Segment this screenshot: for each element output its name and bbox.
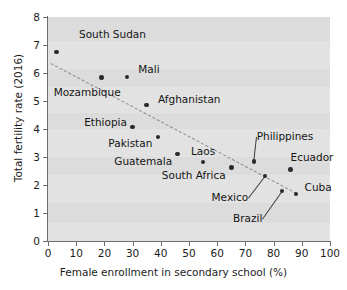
data-point-label: Mozambique [54, 87, 121, 98]
x-axis-tick-label: 90 [287, 248, 317, 258]
data-point-label: Afghanistan [158, 94, 221, 105]
y-axis-tick [43, 101, 47, 102]
x-axis-tick [302, 242, 303, 246]
y-axis-tick [43, 73, 47, 74]
y-axis-tick-label: 8 [10, 12, 40, 22]
data-point [144, 103, 149, 108]
x-axis-tick [76, 242, 77, 246]
data-point [54, 50, 59, 55]
y-axis-tick [43, 185, 47, 186]
data-point [252, 159, 257, 164]
y-axis-title: Total fertility rate (2016) [12, 38, 24, 198]
y-axis-line [47, 16, 48, 242]
x-axis-tick-label: 100 [315, 248, 345, 258]
x-axis-title: Female enrollment in secondary school (%… [0, 266, 347, 278]
scatter-chart-figure: 012345678 0102030405060708090100 South S… [0, 0, 347, 290]
plot-area [48, 17, 330, 241]
data-point-label: Guatemala [0, 156, 172, 167]
x-axis-tick-label: 80 [259, 248, 289, 258]
y-axis-tick [43, 241, 47, 242]
data-point [229, 165, 234, 170]
x-axis-tick-label: 70 [230, 248, 260, 258]
x-axis-tick-label: 50 [174, 248, 204, 258]
x-axis-tick [330, 242, 331, 246]
data-point-label: Mali [138, 64, 159, 75]
data-point-label: Ecuador [291, 152, 334, 163]
x-axis-tick-label: 30 [118, 248, 148, 258]
data-point [288, 167, 293, 172]
x-axis-tick-label: 60 [202, 248, 232, 258]
x-axis-tick-label: 40 [146, 248, 176, 258]
data-point-label: Philippines [257, 131, 314, 142]
data-point [99, 75, 104, 80]
x-axis-tick [189, 242, 190, 246]
x-axis-tick-label: 0 [33, 248, 63, 258]
data-point-label: Cuba [305, 182, 332, 193]
data-point-label: Mexico [0, 192, 248, 203]
y-axis-tick-label: 0 [10, 236, 40, 246]
data-point-label: South Africa [0, 170, 226, 181]
x-axis-tick-label: 10 [61, 248, 91, 258]
data-point-label: Brazil [0, 213, 262, 224]
x-axis-tick [161, 242, 162, 246]
x-axis-tick [217, 242, 218, 246]
x-axis-tick [133, 242, 134, 246]
x-axis-tick [274, 242, 275, 246]
x-axis-tick [48, 242, 49, 246]
data-point-label: Laos [163, 146, 243, 157]
data-point-label: South Sudan [79, 29, 146, 40]
y-axis-tick [43, 17, 47, 18]
x-axis-tick [245, 242, 246, 246]
y-axis-tick [43, 129, 47, 130]
y-axis-tick [43, 45, 47, 46]
x-axis-tick [104, 242, 105, 246]
x-axis-tick-label: 20 [89, 248, 119, 258]
